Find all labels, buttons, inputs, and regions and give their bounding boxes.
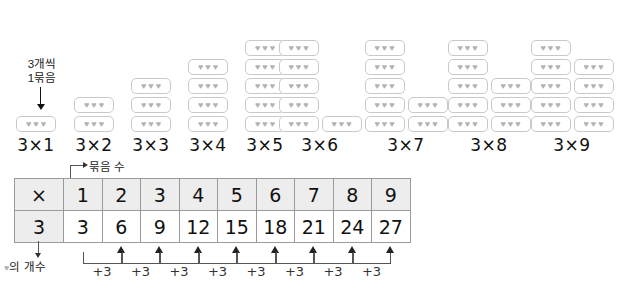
step-label: +3 [314,264,353,279]
heart-icon: ♥ [583,120,588,129]
table-col-head: 5 [218,179,257,211]
group-column: ♥♥♥♥♥♥♥♥♥♥♥♥♥♥♥♥♥♥3×6 [274,40,366,155]
heart-bundle: ♥♥♥ [365,59,405,75]
group-column: ♥♥♥♥♥♥3×2 [66,97,122,155]
heart-icon: ♥ [540,44,545,53]
group-column: ♥♥♥♥♥♥♥♥♥♥♥♥3×4 [180,59,236,155]
heart-icon: ♥ [198,101,203,110]
table-col-head: 3 [141,179,180,211]
table-col-head: 9 [372,179,411,211]
step-bracket-icon [160,252,199,264]
heart-icon: ♥ [583,82,588,91]
heart-icon: ♥ [457,120,462,129]
heart-icon: ♥ [417,120,422,129]
heart-icon: ♥ [156,101,161,110]
heart-icon: ♥ [262,63,267,72]
heart-bundle: ♥♥♥ [448,97,488,113]
step-bracket-icon [276,252,314,264]
heart-icon: ♥ [141,82,146,91]
heart-icon: ♥ [591,63,596,72]
heart-icon: ♥ [374,44,379,53]
heart-icon: ♥ [374,120,379,129]
heart-icon: ♥ [84,101,89,110]
heart-icon: ♥ [255,120,260,129]
group-expression-label: 3×2 [75,135,112,155]
heart-icon: ♥ [213,120,218,129]
step-label: +3 [199,264,237,279]
heart-icon: ♥ [288,120,293,129]
table-product-cell: 15 [218,211,257,243]
table-row-head: 3 [15,211,64,243]
heart-icon: ♥ [432,120,437,129]
heart-icon: ♥ [156,82,161,91]
table-header-row: × 123456789 [15,179,411,211]
heart-bundle: ♥♥♥ [74,116,114,132]
heart-bundle: ♥♥♥ [531,40,571,56]
heart-icon: ♥ [382,101,387,110]
heart-icon: ♥ [540,63,545,72]
heart-icon: ♥ [91,120,96,129]
table-product-cell: 12 [179,211,218,243]
heart-bundle: ♥♥♥ [365,40,405,56]
heart-icon: ♥ [508,120,513,129]
step-arrow-icon [386,246,394,253]
heart-bundle: ♥♥♥ [279,116,319,132]
heart-icon: ♥ [84,120,89,129]
bundle-stack: ♥♥♥♥♥♥♥♥♥♥♥♥ [574,59,614,132]
table-product-cell: 9 [141,211,180,243]
heart-icon: ♥ [457,44,462,53]
heart-icon: ♥ [555,82,560,91]
heart-icon: ♥ [262,82,267,91]
heart-icon: ♥ [288,101,293,110]
heart-bundle: ♥♥♥ [322,116,362,132]
heart-icon: ♥ [598,63,603,72]
heart-icon: ♥ [500,101,505,110]
step-connectors: +3+3+3+3+3+3+3+3 [0,240,618,285]
bundle-stacks: ♥♥♥♥♥♥♥♥♥♥♥♥♥♥♥♥♥♥♥♥♥♥♥♥♥♥♥ [531,40,614,132]
heart-bundle: ♥♥♥ [188,116,228,132]
heart-icon: ♥ [99,120,104,129]
heart-icon: ♥ [457,63,462,72]
group-column: ♥♥♥♥♥♥♥♥♥♥♥♥♥♥♥♥♥♥♥♥♥3×7 [360,40,452,155]
heart-icon: ♥ [425,120,430,129]
heart-bundle: ♥♥♥ [365,97,405,113]
heart-icon: ♥ [198,120,203,129]
heart-icon: ♥ [500,82,505,91]
heart-bundle: ♥♥♥ [531,78,571,94]
table-col-head: 4 [179,179,218,211]
table-col-head: 6 [256,179,295,211]
heart-icon: ♥ [382,120,387,129]
heart-icon: ♥ [425,101,430,110]
table-product-cell: 6 [102,211,141,243]
heart-icon: ♥ [339,120,344,129]
bundle-stacks: ♥♥♥♥♥♥♥♥♥ [131,78,171,132]
heart-icon: ♥ [540,120,545,129]
bundle-stack: ♥♥♥♥♥♥♥♥♥♥♥♥♥♥♥ [448,40,488,132]
heart-icon: ♥ [465,101,470,110]
heart-bundle: ♥♥♥ [574,116,614,132]
heart-bundle: ♥♥♥ [574,59,614,75]
heart-bundle: ♥♥♥ [279,97,319,113]
group-expression-label: 3×9 [553,135,590,155]
group-expression-label: 3×4 [189,135,226,155]
heart-icon: ♥ [205,63,210,72]
group-expression-label: 3×8 [470,135,507,155]
group-column: ♥♥♥♥♥♥♥♥♥3×3 [123,78,179,155]
group-expression-label: 3×1 [17,135,54,155]
heart-bundle: ♥♥♥ [491,116,531,132]
bundle-note: 3개씩 1묶음 [14,58,70,85]
heart-icon: ♥ [296,101,301,110]
heart-icon: ♥ [374,82,379,91]
heart-bundle: ♥♥♥ [531,97,571,113]
heart-icon: ♥ [540,101,545,110]
heart-icon: ♥ [555,63,560,72]
step-connector: +3 [314,240,353,270]
heart-icon: ♥ [262,101,267,110]
step-label: +3 [237,264,276,279]
heart-icon: ♥ [262,44,267,53]
heart-bundle: ♥♥♥ [188,78,228,94]
heart-icon: ♥ [296,82,301,91]
heart-bundle: ♥♥♥ [16,116,56,132]
heart-icon: ♥ [255,101,260,110]
heart-icon: ♥ [33,120,38,129]
